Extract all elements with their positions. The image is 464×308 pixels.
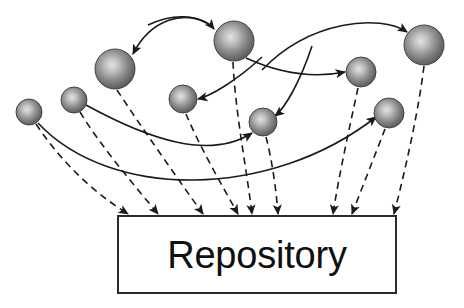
component-sphere-6[interactable]	[249, 108, 277, 136]
sphere-group	[16, 21, 444, 136]
peer-solid-arrow	[86, 105, 252, 146]
component-sphere-2[interactable]	[61, 87, 87, 113]
component-sphere-3[interactable]	[95, 49, 135, 89]
repository-dashed-arrow	[266, 137, 278, 214]
diagram-svg: Repository	[0, 0, 464, 308]
repository-dashed-arrow	[80, 112, 158, 214]
repository-dashed-arrow	[333, 88, 358, 214]
peer-solid-arrow	[275, 46, 312, 116]
component-sphere-1[interactable]	[16, 99, 42, 125]
component-sphere-7[interactable]	[346, 57, 376, 87]
peer-solid-arrow	[133, 18, 213, 54]
peer-solid-arrow	[246, 58, 345, 75]
repository-label: Repository	[167, 234, 347, 276]
repository-box-group[interactable]: Repository	[118, 216, 396, 293]
repository-dashed-arrow	[186, 114, 238, 214]
peer-solid-arrow	[148, 17, 214, 29]
repository-dashed-arrow	[352, 129, 385, 214]
component-sphere-9[interactable]	[404, 25, 444, 65]
peer-solid-arrow	[198, 57, 262, 99]
component-sphere-5[interactable]	[214, 21, 254, 61]
repository-dashed-arrow	[394, 66, 424, 214]
diagram-canvas: Repository	[0, 0, 464, 308]
component-sphere-8[interactable]	[374, 98, 404, 128]
component-sphere-4[interactable]	[169, 85, 197, 113]
peer-solid-arrow	[262, 23, 407, 70]
